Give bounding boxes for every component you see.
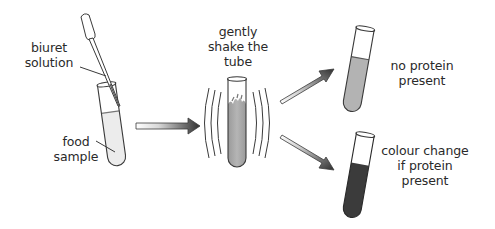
arrow-right-icon bbox=[136, 118, 200, 134]
shake-motion-lines-left bbox=[205, 88, 222, 158]
arrow-down-right-icon bbox=[280, 135, 334, 170]
no-protein-label: no protein present bbox=[383, 58, 461, 88]
label-line: present bbox=[375, 173, 475, 188]
label-line: colour change bbox=[375, 143, 475, 158]
label-line: gently bbox=[198, 24, 278, 39]
shake-motion-lines-right bbox=[253, 88, 270, 158]
negative-result-tube bbox=[341, 25, 375, 113]
label-line: present bbox=[383, 73, 461, 88]
arrow-up-right-icon bbox=[280, 69, 334, 104]
colour-change-label: colour change if protein present bbox=[375, 143, 475, 188]
label-line: biuret bbox=[18, 40, 80, 55]
label-line: food bbox=[50, 134, 102, 149]
pipette-icon bbox=[81, 14, 120, 106]
label-line: tube bbox=[198, 54, 278, 69]
shake-tube-label: gently shake the tube bbox=[198, 24, 278, 69]
label-line: solution bbox=[18, 55, 80, 70]
biuret-test-diagram: biuret solution food sample gently shake… bbox=[0, 0, 495, 229]
food-sample-label: food sample bbox=[50, 134, 102, 164]
label-line: sample bbox=[50, 149, 102, 164]
biuret-solution-label: biuret solution bbox=[18, 40, 80, 70]
label-line: if protein bbox=[375, 158, 475, 173]
label-line: shake the bbox=[198, 39, 278, 54]
label-line: no protein bbox=[383, 58, 461, 73]
positive-result-tube bbox=[341, 131, 375, 219]
shaken-tube bbox=[228, 77, 247, 167]
